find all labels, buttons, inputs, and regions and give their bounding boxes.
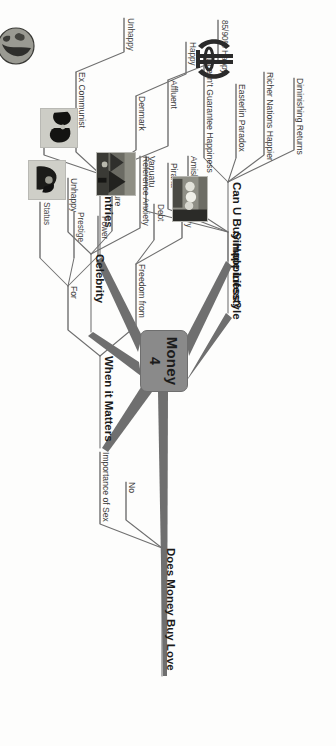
branch-label-does-money-buy-love[interactable]: Does Money Buy Love <box>165 548 177 671</box>
node-power[interactable]: Power <box>100 216 108 239</box>
mindmap-rotated-layer: Money 4 Can U Buy Happiness? Simple Life… <box>0 0 336 746</box>
node-ex-communist[interactable]: Ex Communist <box>77 72 86 128</box>
node-debt[interactable]: Debt <box>156 204 164 221</box>
branch-label-simple-lifestyle[interactable]: Simple Lifestyle <box>231 232 243 320</box>
branch-label-when-it-matters[interactable]: When it Matters <box>103 356 115 442</box>
celebrity-group-photo-image <box>172 176 208 222</box>
node-importance-of-sex[interactable]: Importance of Sex <box>101 452 110 522</box>
node-reference-anxiety[interactable]: Reference Anxiety <box>141 156 150 226</box>
village-photo-image <box>96 152 136 196</box>
branch-label-celebrity[interactable]: Celebrity <box>94 254 106 303</box>
center-node-title: Money <box>164 337 181 386</box>
node-for[interactable]: For <box>69 286 78 299</box>
dark-silhouette-image <box>40 108 78 148</box>
node-freedom-from[interactable]: Freedom from <box>137 264 146 318</box>
node-diminishing-returns[interactable]: Diminishing Returns <box>295 78 304 155</box>
khanda-emblem-image <box>192 36 236 82</box>
node-easterlin-paradox[interactable]: Easterlin Paradox <box>237 84 246 152</box>
node-unhappy-celebrity[interactable]: Unhappy <box>69 178 78 212</box>
mindmap-canvas: Money 4 Can U Buy Happiness? Simple Life… <box>0 0 336 746</box>
node-no[interactable]: No <box>127 482 136 493</box>
center-node-subtitle: 4 <box>147 357 163 365</box>
node-status[interactable]: Status <box>42 202 50 225</box>
node-richer-nations-happier[interactable]: Richer Nations Happier <box>265 72 274 161</box>
node-unhappy-ex-communist[interactable]: Unhappy <box>126 18 134 51</box>
node-denmark[interactable]: Denmark <box>137 96 146 131</box>
globe-earth-image <box>0 26 36 66</box>
node-affluent[interactable]: Affluent <box>169 80 178 109</box>
couple-photo-image <box>28 160 66 200</box>
center-node-money[interactable]: Money 4 <box>140 330 188 392</box>
node-prestige[interactable]: Prestige <box>76 212 84 242</box>
